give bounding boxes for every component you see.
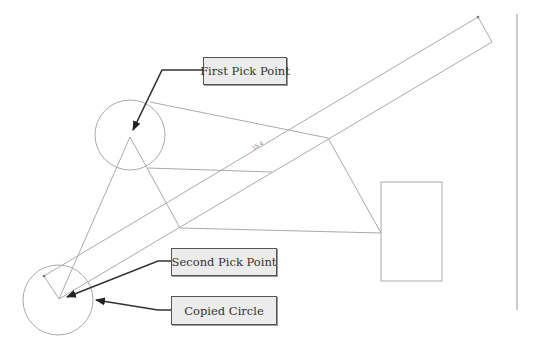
grip-point-icon xyxy=(477,16,480,19)
grip-point-icon xyxy=(43,275,46,278)
rectangle[interactable] xyxy=(381,182,442,281)
callout-first-pick-point: First Pick Point xyxy=(203,57,287,85)
leader-second-pick-point xyxy=(67,261,171,297)
callout-copied-circle: Copied Circle xyxy=(171,296,277,325)
leader-first-pick-point xyxy=(133,70,203,130)
line-tangent[interactable] xyxy=(148,168,272,172)
callout-second-pick-point: Second Pick Point xyxy=(171,248,277,276)
copied-circle[interactable] xyxy=(23,265,93,335)
original-circle[interactable] xyxy=(95,100,165,170)
line-bottom[interactable] xyxy=(180,228,381,233)
line-circle-top[interactable] xyxy=(150,102,328,138)
leader-copied-circle xyxy=(96,300,171,310)
triangle-left-edge[interactable] xyxy=(59,137,130,299)
triangle-right-edge[interactable] xyxy=(130,137,180,228)
line-diagonal[interactable] xyxy=(328,138,381,233)
